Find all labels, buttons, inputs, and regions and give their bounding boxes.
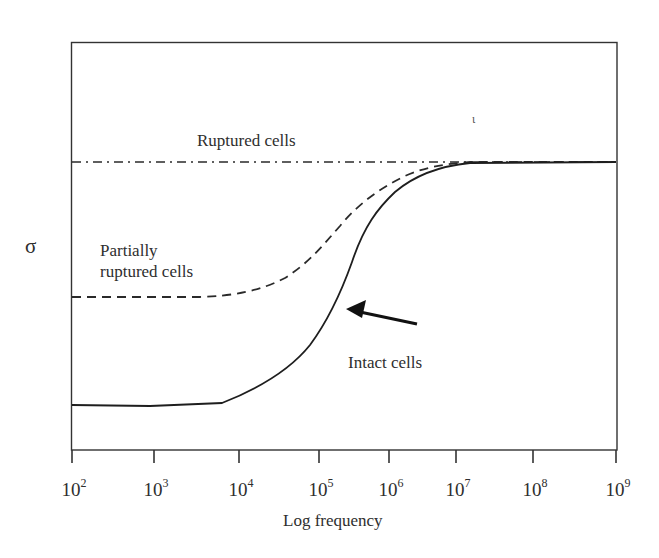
x-tick-label: 103 <box>144 478 169 501</box>
x-tick-label: 105 <box>309 478 334 501</box>
y-axis-label: σ <box>25 234 36 259</box>
arrow-icon <box>346 300 417 324</box>
x-tick-label: 108 <box>523 478 548 501</box>
stray-mark: ι <box>472 112 475 127</box>
x-axis-ticks <box>72 450 616 463</box>
x-tick-label: 106 <box>379 478 404 501</box>
x-tick-label: 102 <box>62 478 87 501</box>
x-tick-label: 107 <box>446 478 471 501</box>
label-partially-line2: ruptured cells <box>100 262 193 282</box>
label-ruptured-cells: Ruptured cells <box>197 131 296 151</box>
label-partially-line1: Partially <box>100 241 158 261</box>
x-tick-label: 104 <box>229 478 254 501</box>
x-axis-label: Log frequency <box>283 511 383 531</box>
chart-canvas <box>0 0 659 558</box>
label-intact-cells: Intact cells <box>348 353 422 373</box>
x-tick-label: 109 <box>606 478 631 501</box>
series-intact-cells <box>72 162 616 406</box>
